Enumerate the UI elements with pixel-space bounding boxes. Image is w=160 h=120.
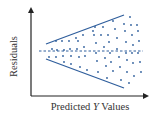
data-point	[110, 61, 112, 63]
data-point	[105, 65, 107, 67]
residual-points	[48, 16, 142, 84]
data-point	[78, 56, 80, 58]
data-point	[112, 20, 114, 22]
data-point	[70, 55, 72, 57]
data-point	[102, 26, 104, 28]
data-point	[56, 49, 58, 51]
data-point	[137, 30, 139, 32]
data-point	[48, 56, 50, 58]
axes	[28, 7, 149, 99]
data-point	[123, 23, 125, 25]
data-point	[119, 66, 121, 68]
data-point	[69, 48, 71, 50]
data-point	[124, 30, 126, 32]
data-point	[76, 48, 78, 50]
data-point	[51, 48, 53, 50]
data-point	[103, 46, 105, 48]
data-point	[131, 34, 133, 36]
data-point	[125, 41, 127, 43]
data-point	[140, 71, 142, 73]
data-point	[86, 69, 88, 71]
data-point	[95, 52, 97, 54]
data-point	[130, 24, 132, 26]
data-point	[83, 46, 85, 48]
data-point	[128, 82, 130, 84]
data-point	[132, 44, 134, 46]
data-point	[118, 56, 120, 58]
data-point	[109, 52, 111, 54]
data-point	[131, 52, 133, 54]
data-point	[129, 16, 131, 18]
data-point	[77, 40, 79, 42]
data-point	[108, 41, 110, 43]
data-point	[68, 40, 70, 42]
data-point	[136, 24, 138, 26]
data-point	[137, 52, 139, 54]
data-point	[114, 28, 116, 30]
data-point	[116, 37, 118, 39]
data-point	[139, 61, 141, 63]
data-point	[104, 57, 106, 59]
data-point	[79, 66, 81, 68]
y-axis-label-text: Residuals	[8, 36, 19, 77]
x-axis-label: Predicted Y Values	[30, 101, 150, 112]
data-point	[107, 34, 109, 36]
data-point	[62, 55, 64, 57]
data-point	[132, 62, 134, 64]
data-point	[95, 42, 97, 44]
data-point	[112, 70, 114, 72]
data-point	[75, 37, 77, 39]
y-axis-label: Residuals	[3, 24, 23, 88]
data-point	[133, 75, 135, 77]
data-point	[94, 26, 96, 28]
data-point	[126, 59, 128, 61]
data-point	[63, 61, 65, 63]
data-point	[82, 34, 84, 36]
data-point	[138, 40, 140, 42]
data-point	[92, 30, 94, 32]
data-point	[126, 71, 128, 73]
data-point	[63, 49, 65, 51]
data-point	[55, 56, 57, 58]
data-point	[84, 55, 86, 57]
lower-envelope-line	[46, 59, 124, 88]
data-point	[55, 40, 57, 42]
data-point	[97, 71, 99, 73]
data-point	[120, 79, 122, 81]
data-point	[96, 60, 98, 62]
data-point	[116, 48, 118, 50]
data-point	[61, 40, 63, 42]
data-point	[93, 34, 95, 36]
data-point	[100, 34, 102, 36]
data-point	[70, 63, 72, 65]
data-point	[106, 77, 108, 79]
upper-envelope-line	[46, 15, 124, 44]
x-axis-arrow-icon	[143, 93, 149, 99]
y-axis-arrow-icon	[28, 7, 34, 13]
data-point	[125, 52, 127, 54]
